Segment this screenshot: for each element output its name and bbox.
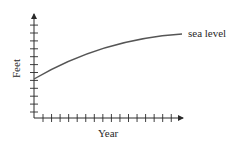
x-axis-label: Year <box>98 127 119 139</box>
y-axis-label: Feet <box>10 59 22 78</box>
chart: sea level Year Feet <box>0 0 238 145</box>
series-label: sea level <box>188 27 226 39</box>
sea-level-curve <box>34 34 182 79</box>
